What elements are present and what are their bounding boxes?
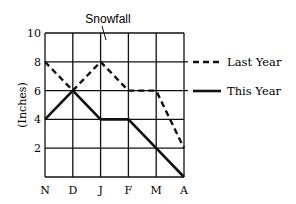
- chart-title: Snowfall: [85, 12, 130, 26]
- y-tick-label: 2: [34, 142, 41, 155]
- x-tick-label: A: [179, 184, 189, 197]
- legend: Last Year This Year: [193, 55, 282, 98]
- x-tick-label: J: [97, 184, 102, 197]
- legend-last-year-label: Last Year: [227, 55, 282, 69]
- legend-this-year-label: This Year: [227, 84, 282, 98]
- y-tick-label: 10: [27, 27, 41, 40]
- x-tick-label: D: [68, 184, 77, 197]
- y-tick-label: 8: [34, 56, 41, 69]
- x-tick-label: F: [125, 184, 133, 197]
- y-tick-label: 4: [34, 113, 41, 126]
- x-tick-label: M: [151, 184, 162, 197]
- x-tick-label: N: [40, 184, 50, 197]
- y-axis-label: (Inches): [16, 82, 29, 127]
- series-line-last-year: [45, 62, 184, 148]
- chart-grid: [45, 33, 188, 177]
- snowfall-chart: NDJFMA246810 Snowfall (Inches) Last Year…: [0, 0, 296, 204]
- y-tick-label: 6: [34, 85, 41, 98]
